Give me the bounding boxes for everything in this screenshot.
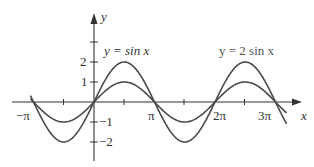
x-tick-label-3pi: 3π: [258, 108, 272, 123]
label-sin-x: y = sin x: [102, 43, 149, 58]
y-tick-label-neg1: −1: [99, 114, 113, 129]
eq-text: y = sin x: [102, 43, 149, 58]
x-tick-label-2pi: 2π: [213, 108, 227, 123]
x-axis-label: x: [300, 108, 307, 123]
x-axis-arrow-icon: [292, 99, 302, 106]
y-axis-label: y: [99, 9, 107, 24]
y-tick-label-1: 1: [81, 74, 88, 89]
x-tick-label-pi: π: [148, 108, 155, 123]
x-tick-label-neg-pi: −π: [16, 108, 30, 123]
y-tick-label-neg2: −2: [99, 134, 113, 149]
sine-graph: y x −π π 2π 3π 2 1 −1 −2 y = sin x y = 2…: [0, 0, 314, 167]
y-axis-arrow-icon: [91, 13, 98, 24]
label-2-sin-x: y = 2 sin x: [219, 43, 275, 58]
y-tick-label-2: 2: [80, 54, 87, 69]
eq-text: y = 2 sin x: [219, 43, 275, 58]
